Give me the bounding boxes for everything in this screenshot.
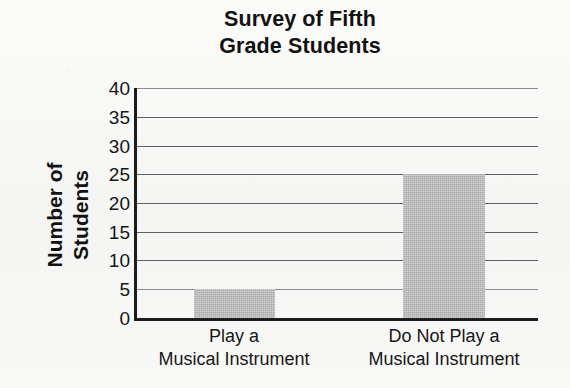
x-category-label-play-line-1: Play a bbox=[128, 325, 340, 348]
y-tick-label-15: 15 bbox=[96, 223, 130, 242]
y-tick-label-10: 10 bbox=[96, 251, 130, 270]
y-tick-label-5: 5 bbox=[96, 280, 130, 299]
chart-title: Survey of Fifth Grade Students bbox=[150, 6, 450, 60]
y-tick-label-40: 40 bbox=[96, 79, 130, 98]
x-category-label-do-not-play: Do Not Play a Musical Instrument bbox=[338, 325, 550, 371]
gridline-30 bbox=[135, 146, 538, 147]
x-category-label-play: Play a Musical Instrument bbox=[128, 325, 340, 371]
y-axis-title-line-1: Number of bbox=[42, 100, 68, 330]
bar-chart: Survey of Fifth Grade Students Number of… bbox=[0, 0, 570, 388]
chart-title-line-2: Grade Students bbox=[150, 33, 450, 60]
y-tick-label-25: 25 bbox=[96, 165, 130, 184]
bar-do-not-play-a-musical-instrument bbox=[403, 174, 485, 318]
gridline-35 bbox=[135, 117, 538, 118]
bar-play-a-musical-instrument bbox=[194, 289, 275, 318]
chart-title-line-1: Survey of Fifth bbox=[150, 6, 450, 33]
y-tick-label-35: 35 bbox=[96, 108, 130, 127]
y-axis-tick-labels: 40 35 30 25 20 15 10 5 0 bbox=[96, 88, 130, 321]
x-axis-category-labels: Play a Musical Instrument Do Not Play a … bbox=[134, 325, 538, 385]
y-tick-label-30: 30 bbox=[96, 137, 130, 156]
x-category-label-do-not-play-line-2: Musical Instrument bbox=[338, 348, 550, 371]
x-category-label-do-not-play-line-1: Do Not Play a bbox=[338, 325, 550, 348]
plot-area bbox=[134, 88, 537, 318]
y-tick-label-20: 20 bbox=[96, 194, 130, 213]
gridline-40 bbox=[135, 88, 538, 89]
y-axis-title-line-2: Students bbox=[68, 100, 94, 330]
y-tick-label-0: 0 bbox=[96, 309, 130, 328]
y-axis-line bbox=[134, 88, 137, 321]
y-axis-title: Number of Students bbox=[42, 100, 94, 330]
x-axis-line bbox=[134, 318, 538, 321]
x-category-label-play-line-2: Musical Instrument bbox=[128, 348, 340, 371]
